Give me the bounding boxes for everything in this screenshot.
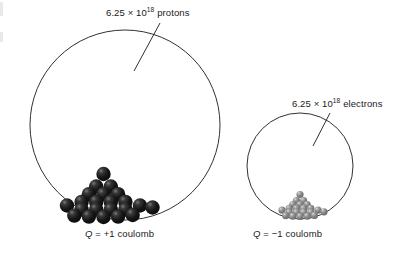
proton-mantissa: 6.25: [106, 7, 125, 18]
electron-particle-word: electrons: [343, 98, 382, 109]
electron-particle: [296, 191, 303, 198]
left-charge-symbol: Q: [85, 228, 93, 239]
proton-base: 10: [136, 7, 147, 18]
left-charge-value: +1 coulomb: [104, 228, 154, 239]
left-charge-caption: Q = +1 coulomb: [85, 229, 154, 239]
proton-count-label: 6.25 × 1018 protons: [106, 8, 190, 18]
proton-particle: [82, 209, 96, 223]
proton-leader-line: [134, 23, 160, 71]
proton-particle: [145, 200, 159, 214]
electron-particle: [296, 213, 303, 220]
proton-cluster: [60, 167, 160, 224]
electron-sphere-group: [247, 113, 353, 220]
proton-particle: [67, 208, 81, 222]
electron-particle: [282, 212, 289, 219]
right-charge-value: −1 coulomb: [272, 228, 322, 239]
proton-sphere-group: [30, 23, 220, 224]
right-charge-caption: Q = −1 coulomb: [253, 229, 322, 239]
electron-particle: [289, 213, 296, 220]
proton-particle: [96, 167, 110, 181]
electron-base: 10: [322, 98, 333, 109]
proton-sphere-outline: [30, 30, 220, 220]
proton-particle: [111, 209, 125, 223]
electron-particle: [304, 213, 311, 220]
electron-cluster: [278, 191, 327, 220]
electron-particle: [320, 208, 327, 215]
figure-canvas: [0, 0, 411, 255]
proton-particle: [96, 210, 110, 224]
electron-particle: [311, 212, 318, 219]
electron-count-label: 6.25 × 1018 electrons: [292, 99, 383, 109]
proton-particle-word: protons: [157, 7, 189, 18]
right-charge-symbol: Q: [253, 228, 261, 239]
proton-particle: [126, 208, 140, 222]
electron-mantissa: 6.25: [292, 98, 311, 109]
physics-figure: 6.25 × 1018 protons 6.25 × 1018 electron…: [0, 0, 411, 255]
